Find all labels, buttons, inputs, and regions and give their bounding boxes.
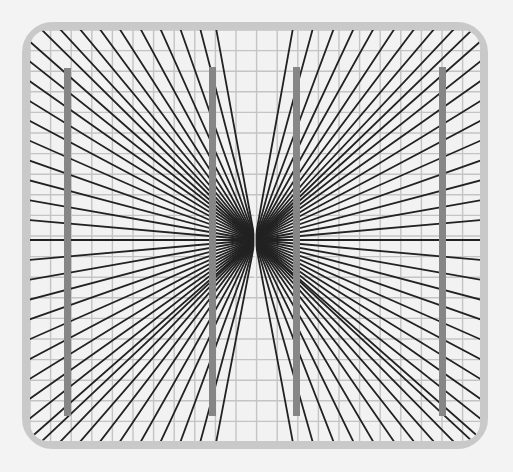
vertical-bar-3 (293, 67, 300, 416)
vertical-bar-4 (439, 67, 446, 416)
hering-illusion-figure (0, 0, 513, 472)
vertical-bar-2 (209, 67, 216, 416)
illusion-stage (0, 0, 513, 472)
vertical-bar-1 (64, 68, 71, 416)
